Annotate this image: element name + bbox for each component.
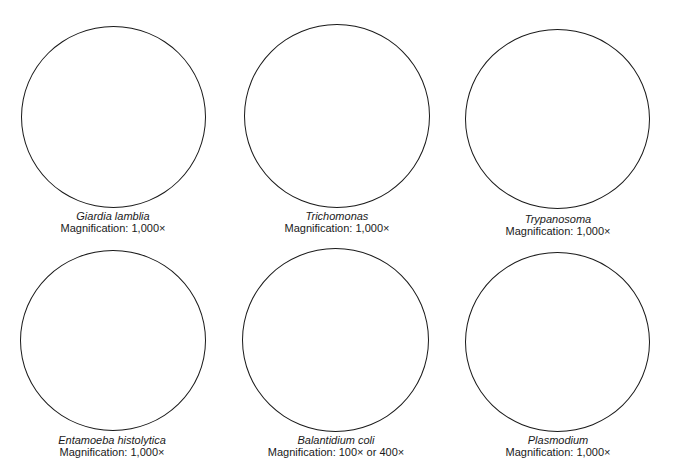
magnification-label: Magnification: 100× or 400× [236, 446, 436, 458]
magnification-label: Magnification: 1,000× [458, 446, 658, 458]
caption-trichomonas: Trichomonas Magnification: 1,000× [237, 210, 437, 234]
drawing-circle-trypanosoma [465, 29, 650, 209]
species-name: Trypanosoma [458, 213, 658, 225]
caption-trypanosoma: Trypanosoma Magnification: 1,000× [458, 213, 658, 237]
magnification-label: Magnification: 1,000× [12, 446, 212, 458]
drawing-circle-trichomonas [244, 24, 430, 208]
species-name: Balantidium coli [236, 434, 436, 446]
caption-plasmodium: Plasmodium Magnification: 1,000× [458, 434, 658, 458]
drawing-circle-giardia [21, 26, 206, 208]
magnification-label: Magnification: 1,000× [237, 222, 437, 234]
drawing-circle-plasmodium [465, 252, 650, 432]
caption-giardia: Giardia lamblia Magnification: 1,000× [13, 210, 213, 234]
magnification-label: Magnification: 1,000× [13, 222, 213, 234]
species-name: Giardia lamblia [13, 210, 213, 222]
drawing-circle-entamoeba [20, 250, 206, 431]
drawing-circle-balantidium [242, 248, 429, 432]
species-name: Entamoeba histolytica [12, 434, 212, 446]
caption-balantidium: Balantidium coli Magnification: 100× or … [236, 434, 436, 458]
species-name: Plasmodium [458, 434, 658, 446]
magnification-label: Magnification: 1,000× [458, 225, 658, 237]
caption-entamoeba: Entamoeba histolytica Magnification: 1,0… [12, 434, 212, 458]
species-name: Trichomonas [237, 210, 437, 222]
